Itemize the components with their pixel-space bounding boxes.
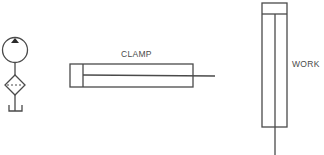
hydraulic-diagram: CLAMP WORK: [0, 0, 324, 155]
work-label: WORK: [292, 59, 320, 69]
filter-icon: [5, 75, 25, 95]
clamp-label: CLAMP: [121, 49, 152, 59]
pump-icon: [3, 38, 28, 63]
clamp-rod: [83, 75, 215, 76]
clamp-cylinder: CLAMP: [70, 49, 215, 87]
power-unit: [3, 38, 28, 112]
work-cylinder: WORK: [262, 3, 320, 155]
